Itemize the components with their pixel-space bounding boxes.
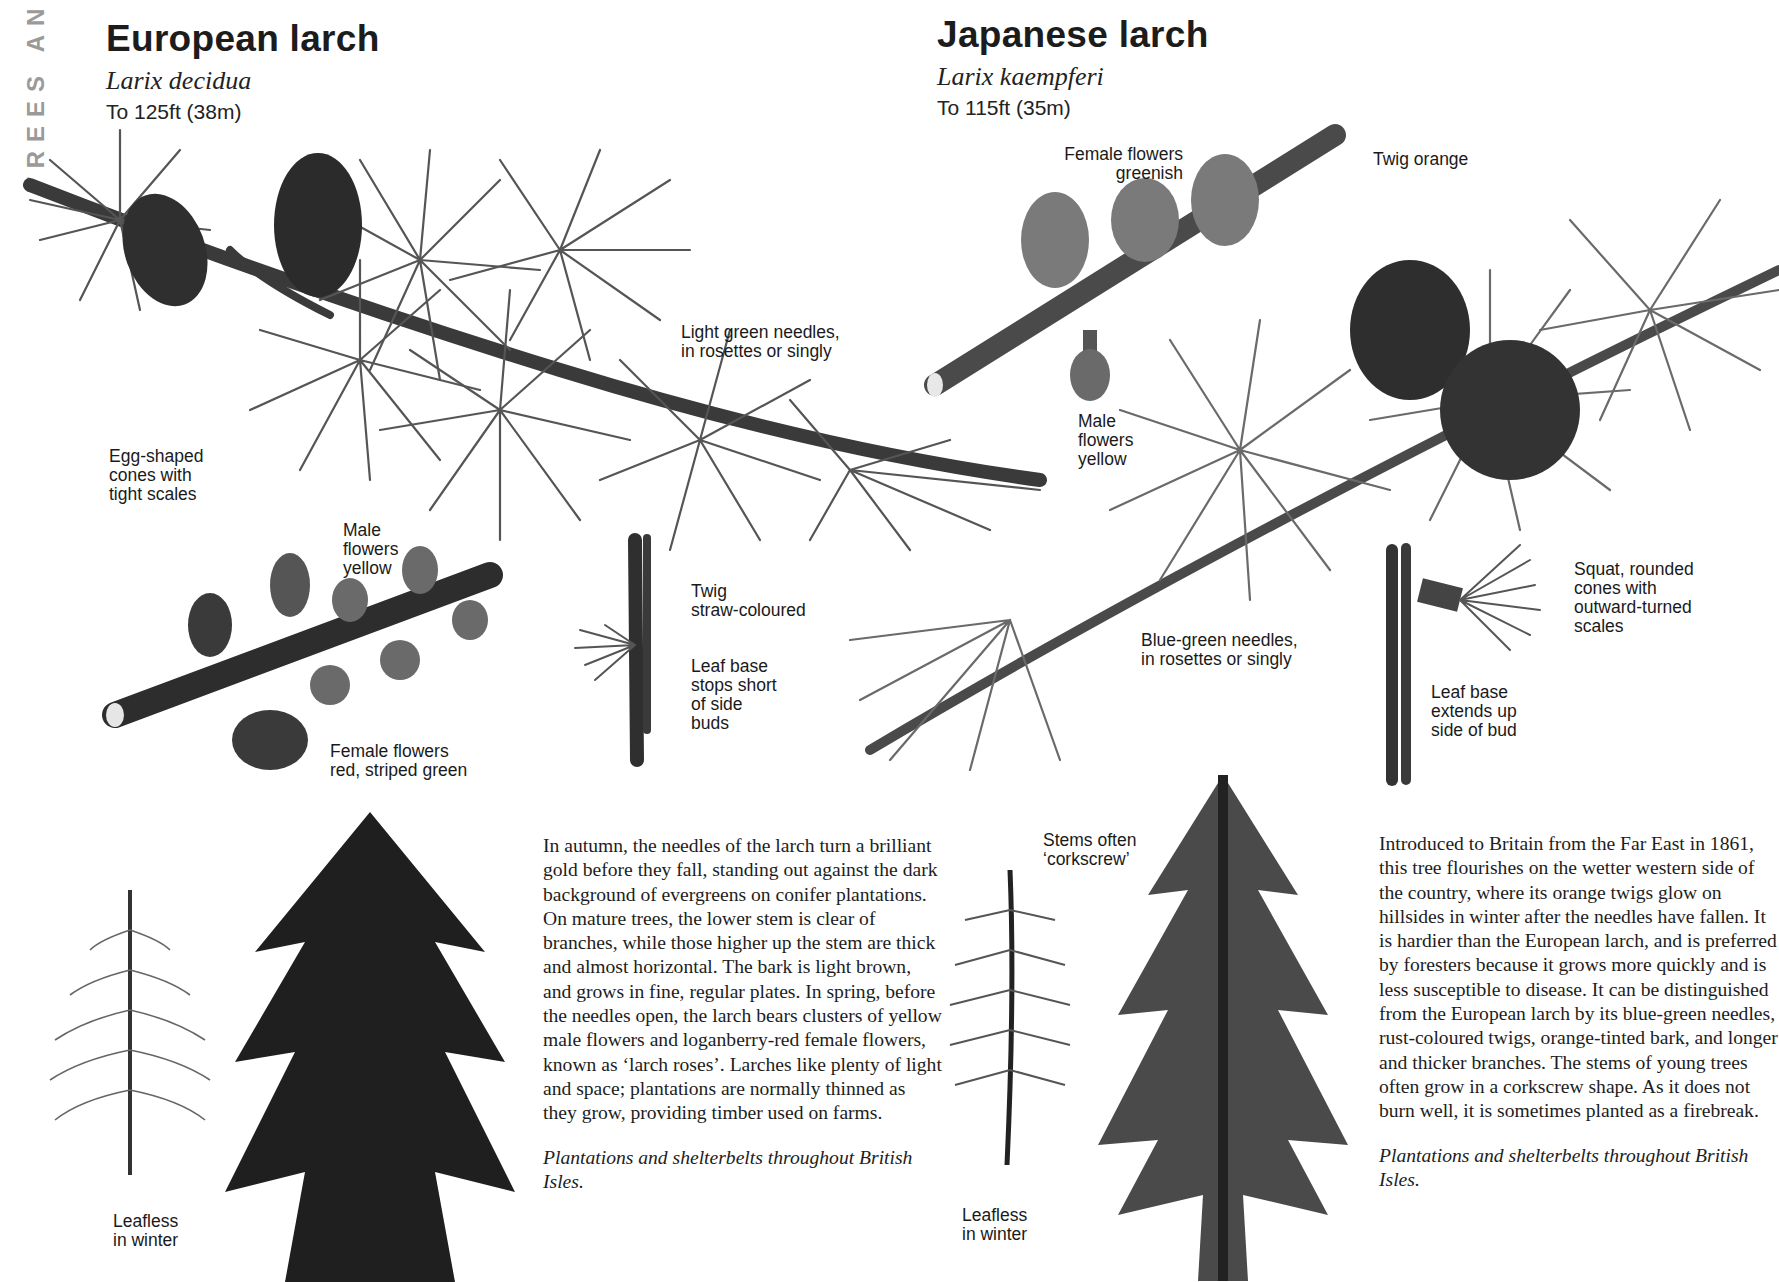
japanese-latin-name: Larix kaempferi: [937, 62, 1104, 92]
european-twig-label: Twig straw-coloured: [691, 582, 806, 620]
european-height: To 125ft (38m): [106, 100, 241, 124]
european-leaf-base-label: Leaf base stops short of side buds: [691, 657, 777, 733]
european-description: In autumn, the needles of the larch turn…: [543, 834, 943, 1194]
japanese-cones-label: Squat, rounded cones with outward-turned…: [1574, 560, 1694, 636]
japanese-mature-tree-illustration: [1088, 775, 1358, 1281]
european-leafless-tree-illustration: [40, 890, 220, 1180]
european-mature-tree-illustration: [225, 812, 515, 1282]
japanese-description: Introduced to Britain from the Far East …: [1379, 832, 1779, 1192]
japanese-height: To 115ft (35m): [937, 96, 1071, 120]
european-twig-detail-illustration: [575, 530, 685, 770]
european-leafless-label: Leafless in winter: [113, 1212, 178, 1250]
european-distribution: Plantations and shelterbelts throughout …: [543, 1146, 943, 1195]
japanese-distribution: Plantations and shelterbelts throughout …: [1379, 1144, 1779, 1193]
japanese-leaf-base-label: Leaf base extends up side of bud: [1431, 683, 1517, 740]
japanese-needles-label: Blue-green needles, in rosettes or singl…: [1141, 631, 1298, 669]
japanese-cone-lower: [1440, 340, 1580, 480]
japanese-description-text: Introduced to Britain from the Far East …: [1379, 832, 1779, 1124]
european-latin-name: Larix decidua: [106, 66, 251, 96]
japanese-branch-illustration: [790, 150, 1779, 770]
japanese-twig-detail-illustration: [1370, 540, 1540, 790]
japanese-leafless-tree-illustration: [945, 870, 1075, 1170]
european-cone-small: [108, 182, 223, 318]
european-cones-label: Egg-shaped cones with tight scales: [109, 447, 203, 504]
japanese-title: Japanese larch: [937, 14, 1209, 56]
european-title: European larch: [106, 18, 380, 60]
european-cone-large: [274, 153, 362, 297]
european-description-text: In autumn, the needles of the larch turn…: [543, 834, 943, 1126]
japanese-leafless-label: Leafless in winter: [962, 1206, 1027, 1244]
european-female-flowers-label: Female flowers red, striped green: [330, 742, 467, 780]
european-male-flowers-label: Male flowers yellow: [343, 521, 398, 578]
